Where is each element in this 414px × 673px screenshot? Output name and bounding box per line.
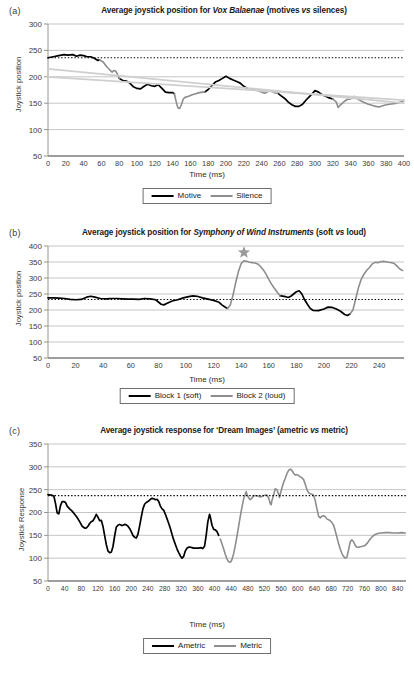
legend-line-icon-metric <box>214 645 236 647</box>
svg-text:350: 350 <box>29 440 43 449</box>
svg-text:280: 280 <box>159 585 171 592</box>
svg-text:20: 20 <box>62 159 70 168</box>
svg-text:60: 60 <box>127 361 135 370</box>
legend-line-icon-motive <box>152 195 174 197</box>
panel-b-title: Average joystick position for Symphony o… <box>40 228 408 237</box>
svg-text:260: 260 <box>273 159 285 168</box>
svg-text:80: 80 <box>115 159 123 168</box>
panel-c-tag: (c) <box>9 426 20 436</box>
svg-text:50: 50 <box>33 354 42 363</box>
svg-text:20: 20 <box>71 361 79 370</box>
svg-text:680: 680 <box>325 585 337 592</box>
svg-text:100: 100 <box>180 361 192 370</box>
svg-text:100: 100 <box>29 338 43 347</box>
svg-text:300: 300 <box>29 274 43 283</box>
svg-text:220: 220 <box>345 361 357 370</box>
svg-text:250: 250 <box>29 46 43 55</box>
svg-text:200: 200 <box>29 73 43 82</box>
svg-text:320: 320 <box>327 159 339 168</box>
panel-c-title: Average joystick response for ‘Dream Ima… <box>40 426 408 435</box>
svg-text:520: 520 <box>259 585 271 592</box>
svg-text:180: 180 <box>290 361 302 370</box>
panel-b-legend: Block 1 (soft) Block 2 (loud) <box>120 388 295 404</box>
panel-b-plot: 5010015020025030035040002040608010012014… <box>0 240 414 380</box>
svg-text:480: 480 <box>242 585 254 592</box>
svg-text:840: 840 <box>392 585 404 592</box>
panel-c-title-vs: vs <box>310 426 319 435</box>
legend-line-icon-silence <box>210 195 232 197</box>
panel-c-title-prefix: Average joystick response for <box>100 426 216 435</box>
panel-b-title-prefix: Average joystick position for <box>82 228 193 237</box>
svg-text:150: 150 <box>29 99 43 108</box>
svg-text:300: 300 <box>29 463 43 472</box>
svg-text:160: 160 <box>263 361 275 370</box>
svg-text:50: 50 <box>33 577 42 586</box>
legend-line-icon-block2 <box>210 395 232 397</box>
legend-item-silence: Silence <box>210 191 262 200</box>
svg-text:160: 160 <box>109 585 121 592</box>
svg-text:140: 140 <box>235 361 247 370</box>
panel-b-title-vs: vs <box>335 228 344 237</box>
svg-text:560: 560 <box>275 585 287 592</box>
legend-label-metric: Metric <box>240 641 262 650</box>
svg-text:400: 400 <box>29 242 43 251</box>
panel-a-legend: Motive Silence <box>143 188 272 204</box>
svg-text:640: 640 <box>309 585 321 592</box>
svg-text:300: 300 <box>29 20 43 29</box>
svg-text:320: 320 <box>176 585 188 592</box>
panel-a-xlabel: Time (ms) <box>0 170 414 179</box>
svg-text:100: 100 <box>131 159 143 168</box>
legend-item-block2: Block 2 (loud) <box>210 391 285 400</box>
svg-text:360: 360 <box>192 585 204 592</box>
svg-text:40: 40 <box>79 159 87 168</box>
svg-text:380: 380 <box>380 159 392 168</box>
svg-text:600: 600 <box>292 585 304 592</box>
svg-text:300: 300 <box>309 159 321 168</box>
panel-c-xlabel: Time (ms) <box>0 620 414 629</box>
svg-text:100: 100 <box>29 126 43 135</box>
svg-text:0: 0 <box>46 585 50 592</box>
figure-root: (a) Average joystick position for Vox Ba… <box>0 0 414 673</box>
svg-text:140: 140 <box>166 159 178 168</box>
panel-c-title-suffix2: metric) <box>319 426 348 435</box>
panel-a-title-suffix: (motives <box>264 6 301 15</box>
legend-label-motive: Motive <box>178 191 202 200</box>
svg-text:400: 400 <box>398 159 410 168</box>
svg-text:200: 200 <box>29 306 43 315</box>
panel-a-tag: (a) <box>9 6 21 16</box>
legend-item-motive: Motive <box>152 191 202 200</box>
svg-text:50: 50 <box>33 152 42 161</box>
svg-text:240: 240 <box>255 159 267 168</box>
legend-label-ametric: Ametric <box>178 641 205 650</box>
svg-text:200: 200 <box>126 585 138 592</box>
svg-text:200: 200 <box>318 361 330 370</box>
panel-b-title-suffix2: loud) <box>344 228 366 237</box>
panel-c-title-plain: ‘Dream Images’ (ametric <box>216 426 310 435</box>
svg-text:200: 200 <box>29 508 43 517</box>
svg-text:100: 100 <box>29 554 43 563</box>
panel-c-legend: Ametric Metric <box>143 638 271 654</box>
svg-text:800: 800 <box>375 585 387 592</box>
legend-line-icon-ametric <box>152 645 174 647</box>
panel-b-title-suffix: (soft <box>314 228 336 237</box>
svg-text:40: 40 <box>99 361 107 370</box>
panel-a-title-suffix2: silences) <box>310 6 346 15</box>
svg-text:340: 340 <box>344 159 356 168</box>
legend-line-icon-block1 <box>129 395 151 397</box>
panel-b-tag: (b) <box>9 228 21 238</box>
svg-text:220: 220 <box>238 159 250 168</box>
svg-text:250: 250 <box>29 290 43 299</box>
svg-text:240: 240 <box>373 361 385 370</box>
svg-text:150: 150 <box>29 322 43 331</box>
svg-text:80: 80 <box>78 585 86 592</box>
svg-text:120: 120 <box>92 585 104 592</box>
svg-text:760: 760 <box>359 585 371 592</box>
panel-a: (a) Average joystick position for Vox Ba… <box>0 0 414 222</box>
svg-text:360: 360 <box>362 159 374 168</box>
legend-item-block1: Block 1 (soft) <box>129 391 202 400</box>
svg-text:80: 80 <box>154 361 162 370</box>
svg-text:280: 280 <box>291 159 303 168</box>
panel-a-title-prefix: Average joystick position for <box>101 6 212 15</box>
panel-b-title-italic: Symphony of Wind Instruments <box>193 228 313 237</box>
legend-label-block2: Block 2 (loud) <box>236 391 285 400</box>
